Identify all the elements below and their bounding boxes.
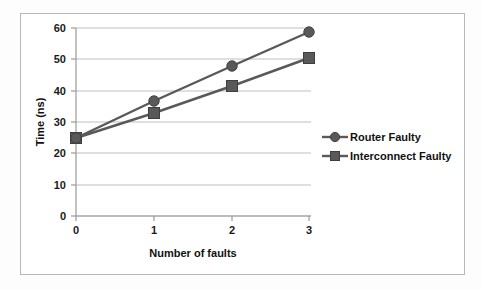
diamond-marker-icon: [330, 132, 339, 141]
router-faulty-point-0: [71, 133, 81, 143]
interconnect-faulty-line: [76, 58, 309, 138]
x-tick-label-3: 3: [306, 224, 312, 236]
chart-figure: 60 50 40 30 20 10 0 0 1 2 3 Number of fa…: [0, 0, 482, 290]
y-axis-ticks: [71, 28, 76, 216]
interconnect-faulty-point-1: [149, 108, 160, 119]
interconnect-faulty-point-2: [227, 81, 238, 92]
y-tick-label-20: 20: [54, 147, 66, 159]
x-tick-label-2: 2: [229, 224, 235, 236]
x-axis-ticks: [76, 216, 309, 221]
router-faulty-point-2: [227, 61, 237, 71]
router-faulty-point-1: [149, 96, 159, 106]
chart-legend: Router Faulty Interconnect Faulty: [322, 131, 452, 162]
legend-label-interconnect-faulty: Interconnect Faulty: [350, 150, 452, 162]
x-tick-label-0: 0: [73, 224, 79, 236]
y-tick-label-0: 0: [60, 210, 66, 222]
y-tick-label-50: 50: [54, 53, 66, 65]
y-tick-label-30: 30: [54, 116, 66, 128]
square-marker-icon: [331, 152, 340, 161]
y-tick-label-60: 60: [54, 22, 66, 34]
series-interconnect-faulty: [71, 53, 315, 144]
x-tick-label-1: 1: [151, 224, 157, 236]
y-axis-tick-labels: 60 50 40 30 20 10 0: [54, 22, 66, 222]
interconnect-faulty-point-3: [304, 53, 315, 64]
chart-canvas: 60 50 40 30 20 10 0 0 1 2 3 Number of fa…: [0, 0, 482, 290]
router-faulty-point-3: [304, 27, 314, 37]
x-axis-tick-labels: 0 1 2 3: [73, 224, 312, 236]
x-axis-title: Number of faults: [149, 247, 236, 259]
legend-label-router-faulty: Router Faulty: [350, 131, 422, 143]
y-tick-label-10: 10: [54, 179, 66, 191]
y-tick-label-40: 40: [54, 85, 66, 97]
legend-entry-router-faulty[interactable]: Router Faulty: [322, 131, 422, 143]
y-axis-title: Time (ns): [34, 97, 46, 146]
legend-entry-interconnect-faulty[interactable]: Interconnect Faulty: [322, 150, 452, 162]
series-router-faulty: [71, 27, 314, 143]
